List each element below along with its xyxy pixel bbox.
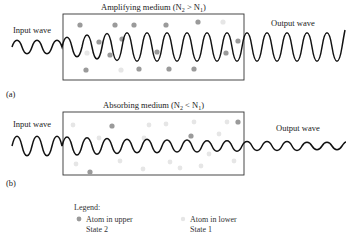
atom-lower: [118, 67, 123, 72]
atom-lower: [220, 19, 225, 24]
atom-upper: [109, 123, 114, 128]
atom-upper: [131, 22, 136, 27]
atom-lower: [199, 164, 204, 169]
atom-lower: [97, 136, 102, 141]
atom-upper: [96, 39, 101, 44]
amplifying-medium-box: [63, 14, 244, 80]
legend: Legend: Atom in upper State 2 Atom in lo…: [74, 203, 237, 234]
atom-upper: [166, 66, 171, 71]
legend-upper-line1: Atom in upper: [86, 215, 133, 224]
panel-b-input-label: Input wave: [13, 119, 51, 129]
atom-upper: [235, 119, 240, 124]
atom-lower: [141, 167, 146, 172]
legend-lower-atom-icon: [181, 217, 185, 221]
panel-a-input-label: Input wave: [13, 25, 51, 35]
atom-lower: [207, 152, 212, 157]
legend-upper-atom-icon: [77, 217, 82, 222]
panel-b-atoms: [71, 119, 241, 174]
legend-upper-line2: State 2: [86, 225, 108, 234]
atom-lower: [225, 120, 230, 125]
atom-upper: [223, 50, 228, 55]
panel-a-title: Amplifying medium (N2 > N1): [101, 2, 206, 13]
atom-upper: [191, 66, 196, 71]
atom-lower: [217, 132, 222, 137]
panel-b-wave: [12, 136, 346, 156]
atom-lower: [178, 166, 183, 171]
panel-b-label: (b): [6, 178, 16, 188]
diagram-canvas: Amplifying medium (N2 > N1) Input wave O…: [0, 0, 364, 250]
atom-lower: [74, 162, 79, 167]
panel-b-title: Absorbing medium (N2 < N1): [103, 100, 204, 111]
atom-lower: [164, 122, 169, 127]
panel-a-label: (a): [6, 89, 16, 99]
panel-b-output-label: Output wave: [276, 123, 320, 133]
atom-upper: [163, 22, 168, 27]
atom-upper: [154, 49, 159, 54]
atom-lower: [192, 120, 197, 125]
panel-a: Amplifying medium (N2 > N1) Input wave O…: [6, 2, 345, 99]
atom-upper: [77, 22, 82, 27]
atom-lower: [118, 159, 123, 164]
panel-a-output-label: Output wave: [271, 18, 315, 28]
atom-lower: [232, 159, 237, 164]
atom-upper: [83, 67, 88, 72]
panel-a-wave: [12, 30, 345, 61]
legend-lower-line1: Atom in lower: [190, 215, 237, 224]
legend-title: Legend:: [74, 203, 100, 212]
atom-upper: [195, 19, 200, 24]
atom-upper: [188, 133, 193, 138]
atom-upper: [87, 169, 92, 174]
atom-lower: [147, 123, 152, 128]
absorbing-medium-box: [63, 112, 244, 175]
atom-lower: [84, 50, 89, 55]
panel-b: Absorbing medium (N2 < N1) Input wave Ou…: [6, 100, 346, 188]
atom-upper: [235, 38, 240, 43]
legend-lower-line2: State 1: [190, 225, 212, 234]
atom-lower: [168, 160, 173, 165]
atom-upper: [136, 66, 141, 71]
atom-upper: [107, 52, 112, 57]
atom-upper: [112, 22, 117, 27]
atom-lower: [71, 123, 76, 128]
